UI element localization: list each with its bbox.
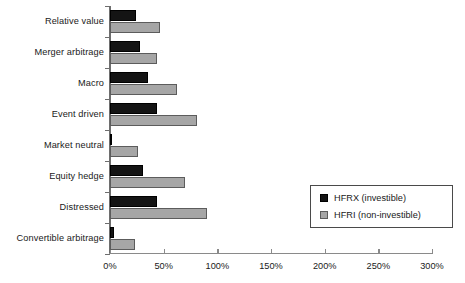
bar-hfrx bbox=[110, 72, 148, 83]
bar-hfrx bbox=[110, 103, 157, 114]
y-axis-tick bbox=[105, 99, 110, 100]
y-axis-label: Convertible arbitrage bbox=[0, 233, 104, 244]
bar-hfrx bbox=[110, 41, 140, 52]
legend-item-hfri: HFRI (non-investible) bbox=[320, 210, 421, 220]
chart-legend: HFRX (investible) HFRI (non-investible) bbox=[310, 185, 453, 228]
page-edge bbox=[0, 273, 465, 283]
y-axis-label: Relative value bbox=[0, 16, 104, 27]
x-axis-tick-label: 150% bbox=[259, 261, 283, 271]
bar-hfri bbox=[110, 146, 138, 157]
bar-chart: Relative valueMerger arbitrageMacroEvent… bbox=[0, 0, 465, 283]
x-axis-tick bbox=[271, 249, 272, 254]
x-axis-tick-label: 200% bbox=[313, 261, 337, 271]
y-axis-label: Market neutral bbox=[0, 140, 104, 151]
bar-hfrx bbox=[110, 165, 143, 176]
y-axis-tick bbox=[105, 254, 110, 255]
y-axis-tick bbox=[105, 68, 110, 69]
bar-hfri bbox=[110, 177, 185, 188]
legend-item-hfrx: HFRX (investible) bbox=[320, 193, 406, 203]
x-axis-tick bbox=[325, 249, 326, 254]
bar-hfrx bbox=[110, 196, 157, 207]
y-axis-tick bbox=[105, 192, 110, 193]
x-axis-tick-label: 250% bbox=[367, 261, 391, 271]
x-axis-tick bbox=[378, 249, 379, 254]
bar-hfri bbox=[110, 239, 135, 250]
bar-hfri bbox=[110, 22, 160, 33]
x-axis-tick bbox=[164, 249, 165, 254]
bar-hfri bbox=[110, 53, 157, 64]
x-axis-tick-label: 100% bbox=[206, 261, 230, 271]
x-axis-tick bbox=[217, 249, 218, 254]
x-axis-tick-label: 50% bbox=[154, 261, 172, 271]
bar-hfrx bbox=[110, 10, 136, 21]
x-axis-tick-label: 300% bbox=[420, 261, 444, 271]
x-axis-tick-label: 0% bbox=[103, 261, 116, 271]
y-axis-label: Equity hedge bbox=[0, 171, 104, 182]
bar-hfri bbox=[110, 208, 207, 219]
y-axis-label: Event driven bbox=[0, 109, 104, 120]
bar-hfri bbox=[110, 84, 177, 95]
y-axis-tick bbox=[105, 223, 110, 224]
x-axis-tick bbox=[110, 249, 111, 254]
y-axis-tick bbox=[105, 161, 110, 162]
y-axis-label: Macro bbox=[0, 78, 104, 89]
legend-label-hfrx: HFRX (investible) bbox=[334, 193, 406, 203]
legend-swatch-hfri bbox=[320, 211, 328, 219]
y-axis-labels: Relative valueMerger arbitrageMacroEvent… bbox=[0, 6, 104, 254]
bar-hfri bbox=[110, 115, 197, 126]
y-axis-label: Merger arbitrage bbox=[0, 47, 104, 58]
y-axis-tick bbox=[105, 37, 110, 38]
legend-label-hfri: HFRI (non-investible) bbox=[334, 210, 421, 220]
y-axis-label: Distressed bbox=[0, 202, 104, 213]
bar-hfrx bbox=[110, 134, 112, 145]
legend-swatch-hfrx bbox=[320, 194, 328, 202]
x-axis-tick bbox=[432, 249, 433, 254]
y-axis-tick bbox=[105, 6, 110, 7]
bar-hfrx bbox=[110, 227, 114, 238]
y-axis-tick bbox=[105, 130, 110, 131]
